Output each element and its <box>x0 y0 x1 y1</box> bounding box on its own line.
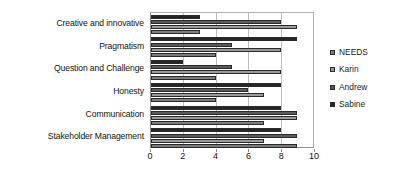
legend-label: Andrew <box>339 83 367 91</box>
bar-row <box>151 111 313 115</box>
bar-chart: Creative and innovative Pragmatism Quest… <box>0 0 404 173</box>
bar-karin <box>151 139 264 143</box>
legend-swatch-icon <box>330 85 335 90</box>
bar-row <box>151 144 313 148</box>
bar-row <box>151 88 313 92</box>
legend-item-sabine: Sabine <box>330 100 402 108</box>
bar-group <box>151 59 313 82</box>
bar-needs <box>151 121 264 125</box>
axis-tick-label: 4 <box>213 152 218 161</box>
bar-andrew <box>151 88 248 92</box>
bar-row <box>151 43 313 47</box>
bar-row <box>151 37 313 41</box>
category-label: Honesty <box>0 80 148 103</box>
bar-sabine <box>151 106 281 110</box>
legend-swatch-icon <box>330 102 335 107</box>
bar-andrew <box>151 134 297 138</box>
legend-swatch-icon <box>330 67 335 72</box>
bar-group <box>151 36 313 59</box>
bar-row <box>151 60 313 64</box>
bar-needs <box>151 76 216 80</box>
axis-tick-label: 10 <box>309 152 319 161</box>
bar-needs <box>151 144 297 148</box>
legend-item-andrew: Andrew <box>330 83 402 91</box>
bar-karin <box>151 25 297 29</box>
plot-area <box>150 12 314 148</box>
bar-row <box>151 139 313 143</box>
bar-group <box>151 104 313 127</box>
legend: NEEDS Karin Andrew Sabine <box>330 48 402 109</box>
bar-karin <box>151 116 297 120</box>
bar-sabine <box>151 83 281 87</box>
bar-needs <box>151 53 216 57</box>
axis-tick-label: 6 <box>246 152 251 161</box>
bar-row <box>151 134 313 138</box>
category-label: Communication <box>0 103 148 126</box>
bar-row <box>151 65 313 69</box>
bar-needs <box>151 30 200 34</box>
legend-label: Sabine <box>339 100 365 108</box>
bar-row <box>151 25 313 29</box>
legend-item-karin: Karin <box>330 65 402 73</box>
category-label: Question and Challenge <box>0 57 148 80</box>
bar-needs <box>151 98 216 102</box>
axis-tick-label: 0 <box>147 152 152 161</box>
bar-sabine <box>151 37 297 41</box>
bar-sabine <box>151 15 200 19</box>
bar-karin <box>151 93 264 97</box>
bar-group <box>151 13 313 36</box>
bar-row <box>151 48 313 52</box>
bar-group <box>151 127 313 150</box>
bar-row <box>151 30 313 34</box>
category-axis: Creative and innovative Pragmatism Quest… <box>0 12 148 148</box>
bar-row <box>151 116 313 120</box>
value-axis: 0246810 <box>150 149 314 165</box>
bar-karin <box>151 70 281 74</box>
category-label: Creative and innovative <box>0 12 148 35</box>
bar-row <box>151 20 313 24</box>
bar-row <box>151 53 313 57</box>
bar-group <box>151 81 313 104</box>
bar-row <box>151 83 313 87</box>
legend-item-needs: NEEDS <box>330 48 402 56</box>
legend-label: NEEDS <box>339 48 368 56</box>
bar-row <box>151 70 313 74</box>
bar-sabine <box>151 128 281 132</box>
bar-row <box>151 15 313 19</box>
legend-swatch-icon <box>330 50 335 55</box>
legend-label: Karin <box>339 65 359 73</box>
bar-row <box>151 106 313 110</box>
bar-sabine <box>151 60 183 64</box>
bar-karin <box>151 48 281 52</box>
bar-row <box>151 128 313 132</box>
bar-row <box>151 76 313 80</box>
bar-andrew <box>151 20 281 24</box>
axis-tick-label: 2 <box>180 152 185 161</box>
bar-row <box>151 93 313 97</box>
bar-andrew <box>151 111 297 115</box>
bar-row <box>151 98 313 102</box>
bar-andrew <box>151 65 232 69</box>
bar-andrew <box>151 43 232 47</box>
bar-row <box>151 121 313 125</box>
category-label: Pragmatism <box>0 35 148 58</box>
axis-tick-label: 8 <box>279 152 284 161</box>
category-label: Stakeholder Management <box>0 125 148 148</box>
bar-groups <box>151 13 313 147</box>
